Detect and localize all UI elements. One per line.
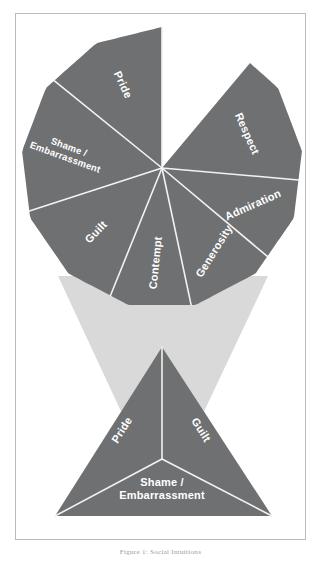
emotion-triangle-group: PrideGuiltShame /Embarrassment <box>55 347 272 516</box>
figure-caption: Figure 1: Social Intuitions <box>15 547 306 563</box>
wheel-sector-respect <box>162 63 302 180</box>
emotion-wheel-group: PrideShame /EmbarrassmentGuiltContemptGe… <box>22 27 302 305</box>
diagram-canvas: PrideShame /EmbarrassmentGuiltContemptGe… <box>0 0 325 565</box>
figure-container: PrideShame /EmbarrassmentGuiltContemptGe… <box>0 0 325 565</box>
